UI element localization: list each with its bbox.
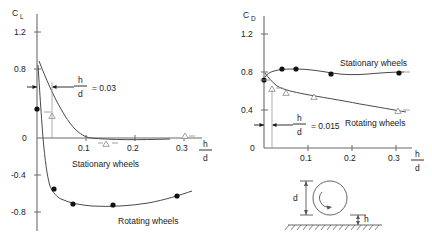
drag-stationary-curve (265, 69, 404, 77)
lift-xaxis-label-num: h (203, 139, 208, 149)
lift-yaxis-label: C (12, 8, 18, 18)
lift-rotating-point-3 (70, 201, 75, 206)
lift-yaxis-label-sub: L (20, 13, 24, 20)
lift-annotation-den: d (78, 89, 83, 99)
drag-annotation-value: = 0.015 (311, 121, 340, 131)
lift-rotating-point-5 (174, 193, 179, 198)
drag-xaxis-label-den: d (415, 163, 420, 173)
drag-panel: C D 1.2 0.8 0.4 0 0.1 0.2 0.3 h d (241, 10, 424, 173)
lift-xtick-label-2: 0.2 (127, 143, 139, 153)
drag-yaxis-label-sub: D (251, 15, 256, 22)
drag-xtick-label-3: 0.3 (388, 153, 400, 163)
drag-stationary-point-2 (279, 66, 284, 71)
drag-xtick-label-2: 0.2 (344, 153, 356, 163)
lift-ytick-label-3: 0 (22, 133, 27, 143)
rotation-arrow (320, 192, 330, 207)
drag-ytick-label-3: 0.4 (241, 105, 253, 115)
lift-ytick-label-1: 1.2 (14, 27, 26, 37)
lift-annotation-num: h (78, 75, 83, 85)
gap-label: h (364, 214, 369, 224)
lift-rotating-point-2 (51, 186, 56, 191)
drag-rotating-point-2 (283, 90, 289, 95)
lift-ytick-label-5: -0.8 (11, 207, 26, 217)
lift-rotating-label: Rotating wheels (118, 216, 178, 226)
rotation-arrow-head (327, 205, 333, 209)
drag-stationary-label: Stationary wheels (340, 58, 407, 68)
wheel-schematic: d h (285, 181, 382, 230)
lift-ytick-label-2: 0.8 (14, 64, 26, 74)
diameter-label: d (293, 193, 298, 203)
lift-xtick-label-3: 0.3 (176, 143, 188, 153)
drag-ytick-label-1: 1.2 (241, 29, 253, 39)
diameter-arrow-bottom (304, 210, 308, 215)
drag-stationary-point-5 (396, 70, 401, 75)
drag-yaxis-label: C (243, 10, 249, 20)
ground-hatching (285, 225, 379, 230)
lift-stationary-label: Stationary wheels (72, 159, 139, 169)
lift-xaxis-label-den: d (203, 153, 208, 163)
drag-stationary-point-4 (328, 71, 333, 76)
lift-annotation-value: = 0.03 (92, 83, 116, 93)
lift-rotating-point-1 (34, 106, 39, 111)
lift-xtick-label-1: 0.1 (78, 143, 90, 153)
drag-stationary-point-3 (293, 66, 298, 71)
lift-stationary-curve (39, 61, 170, 140)
diameter-arrow-top (304, 181, 308, 186)
gap-arrow-bottom (356, 221, 360, 225)
drag-xtick-label-1: 0.1 (300, 153, 312, 163)
drag-ytick-label-2: 0.8 (241, 67, 253, 77)
gap-arrow-top (356, 215, 360, 219)
drag-rotating-point-3 (311, 94, 317, 99)
lift-ytick-label-4: -0.4 (11, 170, 26, 180)
wheel-circle (313, 181, 347, 215)
drag-xaxis-label-num: h (415, 149, 420, 159)
figure-svg: C L 1.2 0.8 0 -0.4 -0.8 0.1 0.2 0.3 h d (0, 0, 432, 238)
drag-rotating-label: Rotating wheels (345, 118, 405, 128)
lift-rotating-point-4 (110, 202, 115, 207)
drag-annotation-num: h (297, 113, 302, 123)
lift-stationary-point-3 (182, 133, 188, 138)
wheel-aerodynamics-figure: C L 1.2 0.8 0 -0.4 -0.8 0.1 0.2 0.3 h d (0, 0, 432, 238)
drag-ytick-label-4: 0 (250, 143, 255, 153)
lift-panel: C L 1.2 0.8 0 -0.4 -0.8 0.1 0.2 0.3 h d (11, 8, 212, 231)
drag-annotation-arrows (254, 123, 293, 127)
lift-stationary-point-2 (103, 141, 109, 146)
drag-annotation-den: d (297, 127, 302, 137)
